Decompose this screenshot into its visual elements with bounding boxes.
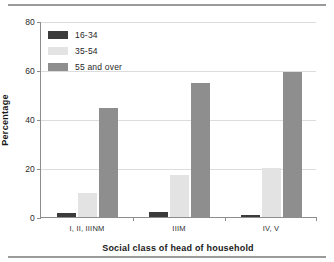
legend-item: 55 and over xyxy=(48,60,122,73)
x-tick-label: IV, V xyxy=(263,224,280,233)
y-tick-label: 60 xyxy=(25,66,35,76)
chart-legend: 16-3435-5455 and over xyxy=(48,28,122,76)
legend-swatch-icon xyxy=(48,47,68,55)
bar xyxy=(191,83,210,217)
x-tick-label: IIIM xyxy=(172,224,185,233)
y-tick-mark xyxy=(37,71,41,72)
bar xyxy=(170,175,189,217)
y-tick-label: 20 xyxy=(25,164,35,174)
x-tick-label: I, II, IIINM xyxy=(70,224,105,233)
y-tick-mark xyxy=(37,169,41,170)
legend-label: 16-34 xyxy=(75,30,98,40)
y-tick-mark xyxy=(37,22,41,23)
gridline xyxy=(41,120,316,121)
y-tick-label: 80 xyxy=(25,17,35,27)
bar xyxy=(283,72,302,217)
y-tick-mark xyxy=(37,120,41,121)
x-axis-title: Social class of head of household xyxy=(102,243,254,253)
legend-item: 35-54 xyxy=(48,44,122,57)
gridline xyxy=(41,22,316,23)
bottom-divider-rule xyxy=(8,256,326,258)
bar xyxy=(57,213,76,217)
legend-swatch-icon xyxy=(48,31,68,39)
bar xyxy=(149,212,168,217)
bar xyxy=(262,168,281,217)
legend-label: 35-54 xyxy=(75,46,98,56)
legend-swatch-icon xyxy=(48,63,68,71)
legend-label: 55 and over xyxy=(75,62,122,72)
top-divider-rule xyxy=(8,4,326,6)
bar xyxy=(78,193,97,218)
y-tick-mark xyxy=(37,218,41,219)
y-tick-label: 40 xyxy=(25,115,35,125)
x-tick-mark xyxy=(225,217,226,221)
chart-figure: Percentage 020406080I, II, IIINMIIIMIV, … xyxy=(0,0,334,262)
y-tick-label: 0 xyxy=(30,213,35,223)
legend-item: 16-34 xyxy=(48,28,122,41)
y-axis-title: Percentage xyxy=(0,94,10,146)
x-tick-mark xyxy=(133,217,134,221)
bar xyxy=(99,108,118,217)
bar xyxy=(241,215,260,217)
x-tick-mark xyxy=(316,217,317,221)
